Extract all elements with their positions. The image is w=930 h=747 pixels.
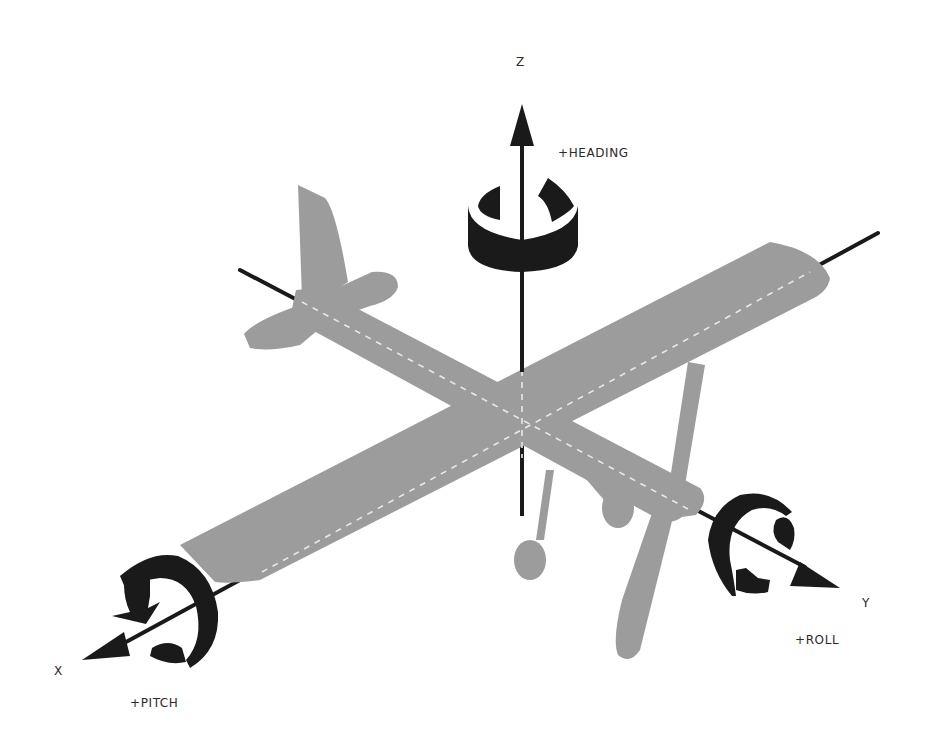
y-axis-label: Y (862, 596, 870, 610)
roll-rotation-label: +ROLL (795, 633, 839, 647)
z-axis-label: Z (516, 55, 525, 69)
heading-rotation-label: +HEADING (558, 146, 629, 160)
z-arrowhead-icon (510, 104, 534, 146)
x-axis-label: X (54, 664, 63, 678)
aircraft-illustration (0, 0, 930, 747)
pitch-rotation-label: +PITCH (130, 696, 178, 710)
axes-diagram: Z +HEADING X +PITCH Y +ROLL (0, 0, 930, 747)
roll-rotation-arrow-icon (708, 493, 840, 596)
pitch-rotation-arrow-icon (82, 555, 218, 668)
